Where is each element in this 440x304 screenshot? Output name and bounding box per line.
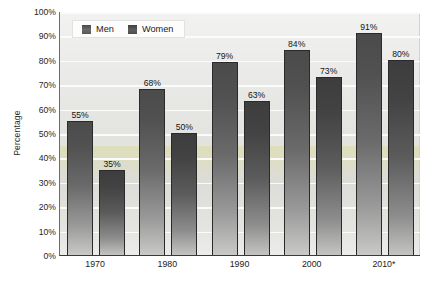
bar-value-label: 68% — [144, 78, 161, 88]
x-axis-tick-label: 1970 — [85, 259, 105, 269]
y-axis-tick-label: 60% — [20, 105, 56, 115]
bar-women-1990[interactable]: 63% — [244, 101, 270, 255]
x-axis-tick-label: 1990 — [230, 259, 250, 269]
bars-layer: 55%35%68%50%79%63%84%73%91%80% — [60, 12, 420, 255]
bar-men-1970[interactable]: 55% — [67, 121, 93, 255]
chart-legend: MenWomen — [72, 20, 185, 38]
bar-value-label: 63% — [248, 90, 265, 100]
y-axis-tick-label: 90% — [20, 31, 56, 41]
bar-women-2010star[interactable]: 80% — [388, 60, 414, 255]
bar-value-label: 80% — [392, 49, 409, 59]
bar-women-2000[interactable]: 73% — [316, 77, 342, 255]
bar-value-label: 79% — [216, 51, 233, 61]
bar-value-label: 50% — [176, 122, 193, 132]
bar-value-label: 84% — [288, 39, 305, 49]
y-axis-tick-label: 30% — [20, 178, 56, 188]
y-axis-tick-label: 0% — [20, 251, 56, 261]
legend-label: Women — [142, 24, 174, 34]
x-axis-tick-label: 2000 — [302, 259, 322, 269]
legend-entry-women[interactable]: Women — [128, 24, 174, 34]
y-axis-tick-labels: 0%10%20%30%40%50%60%70%80%90%100% — [20, 12, 56, 256]
y-axis-tick-label: 10% — [20, 227, 56, 237]
x-axis-tick-label: 2010* — [372, 259, 395, 269]
bar-men-1990[interactable]: 79% — [212, 62, 238, 255]
legend-swatch-women — [128, 25, 137, 34]
y-axis-tick-label: 40% — [20, 153, 56, 163]
legend-label: Men — [96, 24, 114, 34]
y-axis-tick-label: 80% — [20, 56, 56, 66]
bar-value-label: 73% — [320, 66, 337, 76]
plot-area: 55%35%68%50%79%63%84%73%91%80% MenWomen — [59, 12, 420, 256]
y-axis-tick-label: 50% — [20, 129, 56, 139]
legend-swatch-men — [82, 25, 91, 34]
bar-chart-figure: Percentage 0%10%20%30%40%50%60%70%80%90%… — [0, 0, 440, 304]
bar-women-1970[interactable]: 35% — [99, 170, 125, 255]
legend-entry-men[interactable]: Men — [82, 24, 114, 34]
bar-value-label: 35% — [103, 159, 120, 169]
bar-men-2000[interactable]: 84% — [284, 50, 310, 255]
y-axis-tick-label: 70% — [20, 80, 56, 90]
y-axis-tick-label: 20% — [20, 202, 56, 212]
x-axis-tick-label: 1980 — [158, 259, 178, 269]
bar-men-2010star[interactable]: 91% — [356, 33, 382, 255]
bar-men-1980[interactable]: 68% — [139, 89, 165, 255]
bar-women-1980[interactable]: 50% — [171, 133, 197, 255]
x-axis-tick-labels: 19701980199020002010* — [59, 259, 420, 275]
bar-value-label: 55% — [71, 110, 88, 120]
y-axis-tick-label: 100% — [20, 7, 56, 17]
bar-value-label: 91% — [360, 22, 377, 32]
